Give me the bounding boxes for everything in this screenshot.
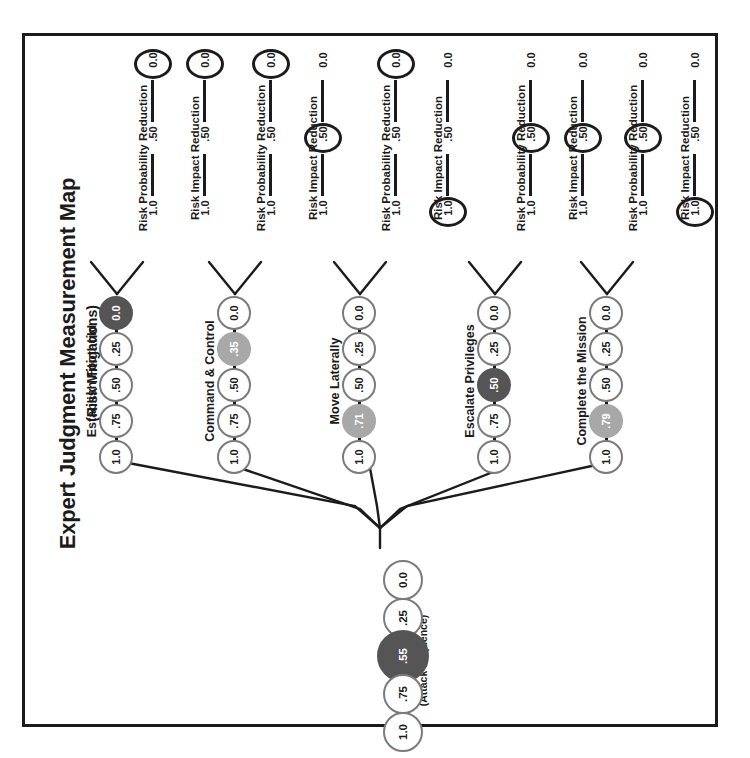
scale-node-value: 1.0 bbox=[110, 449, 122, 464]
root-scale-node[interactable]: .75 bbox=[383, 674, 423, 714]
scale-node[interactable]: 0.0 bbox=[99, 296, 133, 330]
scale-node-value: 1.0 bbox=[600, 449, 612, 464]
root-chain: Risk Mitigations (Attack Sequence) 0.0.2… bbox=[377, 560, 431, 752]
construct-chain: Command & Control0.0.35.50.751.0 bbox=[211, 296, 259, 476]
scale-node-value: 1.0 bbox=[353, 449, 365, 464]
scale-node-value: .25 bbox=[353, 341, 365, 356]
scale-node[interactable]: 0.0 bbox=[589, 296, 623, 330]
construct-chain: Complete the Mission0.0.25.50.791.0 bbox=[583, 296, 631, 476]
scale-node-value: 0.0 bbox=[488, 305, 500, 320]
scale-node-value: .50 bbox=[600, 377, 612, 392]
scale-node-value: .75 bbox=[228, 413, 240, 428]
construct-chain: Escalate Privileges0.0.25.50.751.0 bbox=[471, 296, 519, 476]
scale-node-value: .71 bbox=[353, 413, 365, 428]
scale-node[interactable]: 0.0 bbox=[217, 296, 251, 330]
root-scale-node[interactable]: 1.0 bbox=[383, 712, 423, 752]
scale-node[interactable]: .25 bbox=[99, 332, 133, 366]
scale-node-value: 0.0 bbox=[228, 305, 240, 320]
construct-chain: Move Laterally0.0.25.50.711.0 bbox=[336, 296, 384, 476]
construct-label: Establish Foothold bbox=[85, 286, 99, 476]
scale-node-value: .50 bbox=[228, 377, 240, 392]
scale-node[interactable]: 1.0 bbox=[99, 440, 133, 474]
scale-node[interactable]: .50 bbox=[99, 368, 133, 402]
scale-node[interactable]: 1.0 bbox=[342, 440, 376, 474]
scale-node-value: 1.0 bbox=[228, 449, 240, 464]
scale-node[interactable]: .50 bbox=[477, 368, 511, 402]
scale-node[interactable]: .79 bbox=[589, 404, 623, 438]
scale-node[interactable]: .50 bbox=[589, 368, 623, 402]
root-scale-node-value: .25 bbox=[397, 610, 409, 626]
construct-label: Escalate Privileges bbox=[463, 286, 477, 476]
scale-node-value: 0.0 bbox=[600, 305, 612, 320]
scale-node[interactable]: 0.0 bbox=[342, 296, 376, 330]
scale-node-value: .25 bbox=[600, 341, 612, 356]
scale-node[interactable]: .75 bbox=[99, 404, 133, 438]
diagram-frame: Expert Judgment Measurement Map (Risk Mi… bbox=[22, 33, 718, 727]
scale-node-value: .50 bbox=[488, 377, 500, 392]
scale-node-value: .79 bbox=[600, 413, 612, 428]
root-scale-node-value: .75 bbox=[397, 686, 409, 702]
scale-node-value: .25 bbox=[110, 341, 122, 356]
scale-node-value: .25 bbox=[488, 341, 500, 356]
scale-node[interactable]: .35 bbox=[217, 332, 251, 366]
scale-node[interactable]: .50 bbox=[217, 368, 251, 402]
scale-node[interactable]: .25 bbox=[589, 332, 623, 366]
scale-node[interactable]: .71 bbox=[342, 404, 376, 438]
construct-chain: Establish Foothold0.0.25.50.751.0 bbox=[93, 296, 141, 476]
root-scale-node-value: 1.0 bbox=[397, 724, 409, 740]
scale-node[interactable]: .75 bbox=[217, 404, 251, 438]
scale-node[interactable]: 1.0 bbox=[477, 440, 511, 474]
scale-node[interactable]: .75 bbox=[477, 404, 511, 438]
construct-label: Command & Control bbox=[203, 286, 217, 476]
scale-node-value: .75 bbox=[488, 413, 500, 428]
scale-node[interactable]: 1.0 bbox=[217, 440, 251, 474]
scale-node-value: .50 bbox=[110, 377, 122, 392]
scale-node[interactable]: 1.0 bbox=[589, 440, 623, 474]
scale-node-value: .35 bbox=[228, 341, 240, 356]
root-scale-node-value: 0.0 bbox=[397, 572, 409, 588]
scale-node-value: 0.0 bbox=[353, 305, 365, 320]
root-scale-node-value: .55 bbox=[397, 648, 409, 664]
scale-node-value: 1.0 bbox=[488, 449, 500, 464]
construct-label: Move Laterally bbox=[328, 286, 342, 476]
scale-node[interactable]: .25 bbox=[342, 332, 376, 366]
scale-node-value: 0.0 bbox=[110, 305, 122, 320]
scale-node-value: .75 bbox=[110, 413, 122, 428]
scale-node-value: .50 bbox=[353, 377, 365, 392]
scale-node[interactable]: .50 bbox=[342, 368, 376, 402]
construct-label: Complete the Mission bbox=[575, 286, 589, 476]
scale-node[interactable]: 0.0 bbox=[477, 296, 511, 330]
root-scale-node[interactable]: 0.0 bbox=[383, 560, 423, 600]
scale-node[interactable]: .25 bbox=[477, 332, 511, 366]
